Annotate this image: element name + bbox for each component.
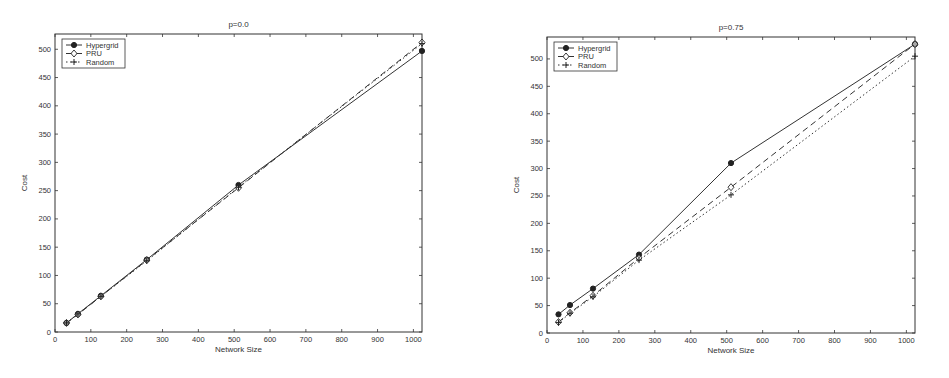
- x-tick-label: 300: [649, 336, 662, 345]
- legend: HypergridPRURandom: [554, 42, 617, 71]
- y-tick-label: 300: [530, 164, 543, 173]
- series-line: [559, 44, 916, 314]
- y-tick-label: 400: [530, 109, 543, 118]
- filled-circle-marker-icon: [728, 160, 733, 165]
- filled-circle-marker-icon: [563, 45, 568, 50]
- x-axis-label: Network Size: [215, 345, 263, 354]
- diamond-marker-icon: [728, 184, 734, 191]
- filled-circle-marker-icon: [419, 48, 424, 53]
- x-tick-label: 400: [684, 336, 697, 345]
- plus-marker-icon: [728, 192, 734, 198]
- series-line: [67, 51, 423, 323]
- legend-label: Random: [578, 61, 606, 70]
- x-tick-label: 1000: [405, 335, 422, 344]
- chart-title: p=0.0: [228, 20, 249, 29]
- filled-circle-marker-icon: [556, 312, 561, 317]
- y-axis-label: Cost: [20, 174, 29, 191]
- y-tick-label: 100: [38, 271, 51, 280]
- series-random: [63, 41, 425, 326]
- y-tick-label: 400: [38, 101, 51, 110]
- x-tick-label: 800: [335, 335, 348, 344]
- y-tick-label: 150: [530, 246, 543, 255]
- x-tick-label: 700: [300, 335, 313, 344]
- x-tick-label: 900: [371, 335, 384, 344]
- plus-marker-icon: [912, 53, 918, 59]
- y-tick-label: 0: [539, 329, 543, 338]
- y-tick-label: 200: [530, 219, 543, 228]
- x-tick-label: 600: [264, 335, 277, 344]
- series-line: [559, 56, 916, 322]
- y-tick-label: 50: [535, 301, 543, 310]
- chart-title: p=0.75: [719, 23, 744, 32]
- y-tick-label: 350: [530, 137, 543, 146]
- series-random: [556, 53, 919, 325]
- y-tick-label: 100: [530, 274, 543, 283]
- y-tick-label: 250: [530, 191, 543, 200]
- series-hypergrid: [64, 48, 425, 325]
- legend: HypergridPRURandom: [62, 39, 125, 68]
- series-line: [559, 44, 916, 322]
- chart-panel-p075: p=0.750100200300400500600700800900100005…: [475, 0, 949, 378]
- y-tick-label: 200: [38, 214, 51, 223]
- x-axis-label: Network Size: [707, 346, 755, 355]
- x-tick-label: 700: [792, 336, 805, 345]
- diamond-marker-icon: [912, 41, 918, 48]
- y-tick-label: 450: [530, 82, 543, 91]
- chart-panel-p0: p=0.001002003004005006007008009001000050…: [0, 0, 475, 378]
- y-axis-label: Cost: [512, 176, 521, 193]
- y-tick-label: 300: [38, 158, 51, 167]
- line-chart-p075: p=0.750100200300400500600700800900100005…: [475, 0, 949, 378]
- y-tick-label: 250: [38, 186, 51, 195]
- y-tick-label: 50: [43, 299, 51, 308]
- x-tick-label: 400: [192, 335, 205, 344]
- x-tick-label: 1000: [898, 336, 915, 345]
- x-tick-label: 300: [156, 335, 169, 344]
- y-tick-label: 150: [38, 243, 51, 252]
- x-tick-label: 200: [120, 335, 133, 344]
- x-tick-label: 500: [228, 335, 241, 344]
- filled-circle-marker-icon: [590, 286, 595, 291]
- x-tick-label: 600: [756, 336, 769, 345]
- y-tick-label: 350: [38, 130, 51, 139]
- y-tick-label: 500: [530, 54, 543, 63]
- series-hypergrid: [556, 42, 918, 317]
- y-tick-label: 500: [38, 45, 51, 54]
- x-tick-label: 0: [545, 336, 549, 345]
- filled-circle-marker-icon: [71, 42, 76, 47]
- x-tick-label: 100: [85, 335, 98, 344]
- x-tick-label: 500: [720, 336, 733, 345]
- x-tick-label: 800: [828, 336, 841, 345]
- y-tick-label: 450: [38, 73, 51, 82]
- x-tick-label: 900: [864, 336, 877, 345]
- x-tick-label: 200: [613, 336, 626, 345]
- x-tick-label: 100: [577, 336, 590, 345]
- filled-circle-marker-icon: [567, 302, 572, 307]
- line-chart-p0: p=0.001002003004005006007008009001000050…: [0, 0, 475, 378]
- y-tick-label: 0: [47, 328, 51, 337]
- legend-label: Random: [86, 58, 114, 67]
- x-tick-label: 0: [53, 335, 57, 344]
